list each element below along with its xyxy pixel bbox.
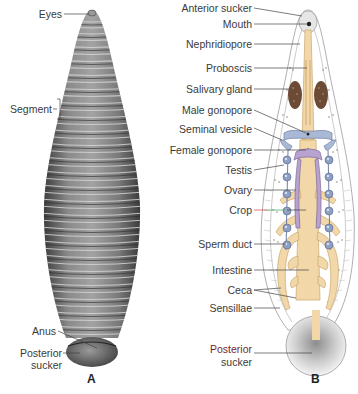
label-posterior-sucker-b-line1: Posterior	[160, 343, 252, 355]
label-anus: Anus	[10, 325, 56, 337]
label-female-gonopore: Female gonopore	[150, 144, 252, 156]
leech-internal-view	[254, 8, 354, 376]
label-nephridiopore: Nephridiopore	[160, 38, 252, 50]
eyes-marker	[88, 10, 96, 16]
label-anterior-sucker: Anterior sucker	[160, 2, 252, 14]
label-sperm-duct: Sperm duct	[160, 238, 252, 250]
label-posterior-sucker-b-line2: sucker	[160, 356, 252, 368]
label-segment: Segment	[2, 103, 52, 115]
panel-letter-a: A	[87, 372, 96, 386]
label-salivary-gland: Salivary gland	[160, 83, 252, 95]
label-sensillae: Sensillae	[160, 302, 252, 314]
label-male-gonopore: Male gonopore	[160, 104, 252, 116]
label-seminal-vesicle: Seminal vesicle	[160, 123, 252, 135]
leech-external-view	[40, 10, 144, 367]
panel-letter-b: B	[311, 372, 320, 386]
mouth-shape	[307, 22, 311, 26]
male-gonopore-marker	[307, 133, 310, 136]
label-ovary: Ovary	[160, 184, 252, 196]
label-eyes: Eyes	[22, 8, 62, 20]
label-intestine: Intestine	[160, 264, 252, 276]
label-posterior-sucker-a-line1: Posterior	[8, 347, 62, 359]
label-proboscis: Proboscis	[160, 62, 252, 74]
label-crop: Crop	[160, 204, 252, 216]
label-testis: Testis	[160, 164, 252, 176]
label-ceca: Ceca	[160, 284, 252, 296]
label-mouth: Mouth	[160, 18, 252, 30]
label-posterior-sucker-a-line2: sucker	[8, 359, 62, 371]
